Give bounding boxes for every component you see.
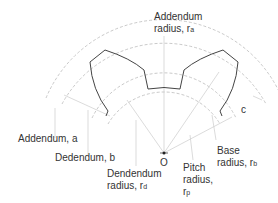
addendum-radius-label: Addendum radius, ra [154, 11, 202, 36]
dedendum-label: Dedendum, b [55, 152, 115, 164]
pitch-radius-line [164, 72, 219, 153]
base-radius-label: Base radius, rb [217, 145, 257, 170]
pitch-radius-label: Pitch radius, rp [183, 162, 213, 199]
dedendum-radius-label: Dendendum radius, rd [107, 168, 161, 193]
addendum-label: Addendum, a [18, 133, 78, 145]
dedendum-radius-line [127, 100, 164, 153]
clearance-label: c [241, 104, 246, 116]
